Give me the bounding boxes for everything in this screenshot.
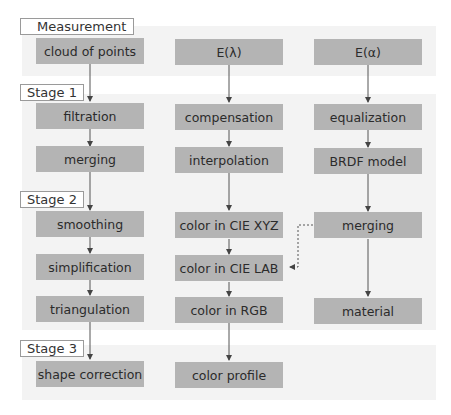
node-color-cie-xyz: color in CIE XYZ	[175, 212, 283, 238]
node-simplification: simplification	[36, 254, 144, 280]
node-interpolation: interpolation	[175, 147, 283, 173]
node-color-rgb: color in RGB	[175, 297, 283, 323]
node-merging: merging	[36, 146, 144, 172]
node-material: material	[314, 298, 422, 324]
node-color-profile: color profile	[175, 362, 283, 388]
node-smoothing: smoothing	[36, 211, 144, 237]
node-filtration: filtration	[36, 103, 144, 129]
node-equalization: equalization	[314, 104, 422, 130]
node-compensation: compensation	[175, 104, 283, 130]
node-e-alpha: E(α)	[314, 39, 422, 65]
node-color-cie-lab: color in CIE LAB	[175, 255, 283, 281]
node-triangulation: triangulation	[36, 296, 144, 322]
node-cloud-of-points: cloud of points	[36, 38, 144, 64]
node-shape-correction: shape correction	[36, 361, 144, 387]
edge-merging-lab-dotted	[290, 225, 313, 267]
node-merging-reflectance: merging	[314, 212, 422, 238]
node-e-lambda: E(λ)	[175, 39, 283, 65]
node-brdf-model: BRDF model	[314, 148, 422, 174]
